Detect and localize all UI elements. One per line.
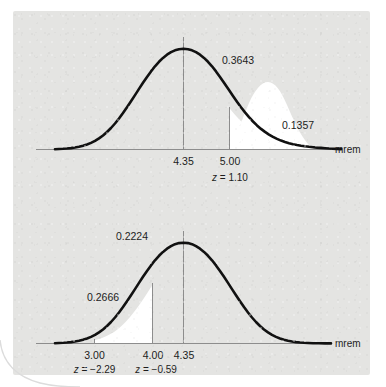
chart-top-z-label: z = 1.10: [211, 172, 248, 183]
chart-bottom: 0.2224 0.2666 3.00 4.00 4.35 z = −2.29 z…: [13, 193, 370, 375]
chart-bottom-tick-lower: 3.00: [84, 349, 105, 361]
chart-bottom-z-lower-label: z = −2.29: [73, 364, 116, 375]
chart-top-tick-mean: 4.35: [173, 155, 194, 167]
chart-bottom-tick-upper: 4.00: [143, 349, 164, 361]
chart-bottom-area-label-0: 0.2224: [116, 230, 148, 242]
chart-top-axis-unit: mrem: [335, 144, 361, 155]
chart-bottom-z-upper-label: z = −0.59: [134, 364, 177, 375]
chart-bottom-tick-mean: 4.35: [174, 349, 195, 361]
chart-bottom-area-label-1: 0.2666: [87, 291, 119, 303]
figure-panel: 0.3643 0.1357 4.35 5.00 z = 1.10 mrem: [13, 11, 370, 375]
chart-top-area-label-0: 0.3643: [222, 54, 254, 66]
chart-top: 0.3643 0.1357 4.35 5.00 z = 1.10 mrem: [13, 11, 370, 193]
chart-top-area-label-1: 0.1357: [282, 119, 314, 131]
chart-top-tick-cutoff: 5.00: [220, 155, 241, 167]
chart-bottom-svg: 0.2224 0.2666 3.00 4.00 4.35 z = −2.29 z…: [13, 193, 370, 375]
chart-bottom-axis-unit: mrem: [335, 338, 361, 349]
chart-top-svg: 0.3643 0.1357 4.35 5.00 z = 1.10 mrem: [13, 11, 370, 193]
